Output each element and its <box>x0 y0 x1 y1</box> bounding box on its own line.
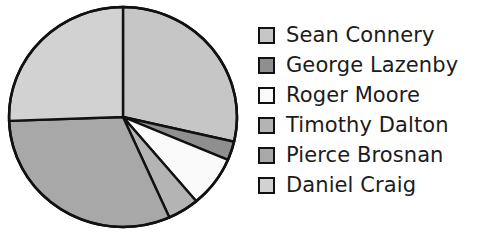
legend-item-roger-moore[interactable]: Roger Moore <box>258 80 477 110</box>
pie-slice[interactable]: Daniel Craig <box>9 7 123 121</box>
legend-item-pierce-brosnan[interactable]: Pierce Brosnan <box>258 140 477 170</box>
legend-swatch-icon <box>258 27 275 44</box>
legend-swatch-icon <box>258 117 275 134</box>
legend-item-label: Pierce Brosnan <box>286 145 444 166</box>
legend-item-label: Timothy Dalton <box>286 115 449 136</box>
legend-item-label: Roger Moore <box>286 85 420 106</box>
legend-item-label: Sean Connery <box>286 25 434 46</box>
legend-item-timothy-dalton[interactable]: Timothy Dalton <box>258 110 477 140</box>
pie-chart-svg: Sean ConneryGeorge LazenbyRoger MooreTim… <box>0 0 246 233</box>
legend-swatch-icon <box>258 57 275 74</box>
legend-item-label: Daniel Craig <box>286 175 416 196</box>
pie-slice-group: Sean ConneryGeorge LazenbyRoger MooreTim… <box>9 7 237 227</box>
legend-item-george-lazenby[interactable]: George Lazenby <box>258 50 477 80</box>
legend-swatch-icon <box>258 87 275 104</box>
legend-item-daniel-craig[interactable]: Daniel Craig <box>258 170 477 200</box>
legend-item-label: George Lazenby <box>286 55 458 76</box>
pie-chart-figure: Sean ConneryGeorge LazenbyRoger MooreTim… <box>0 0 477 233</box>
pie-chart-plot-area: Sean ConneryGeorge LazenbyRoger MooreTim… <box>0 0 246 233</box>
chart-legend: Sean Connery George Lazenby Roger Moore … <box>258 20 477 200</box>
legend-item-sean-connery[interactable]: Sean Connery <box>258 20 477 50</box>
legend-swatch-icon <box>258 147 275 164</box>
legend-swatch-icon <box>258 177 275 194</box>
